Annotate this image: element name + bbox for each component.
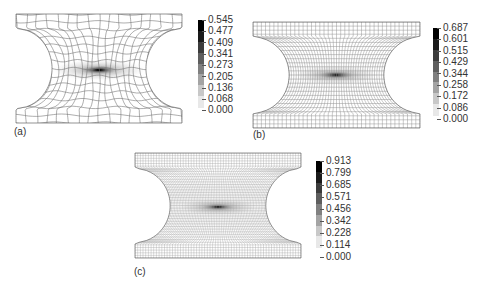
colorbar-tick-label: 0.228 [320,228,351,238]
colorbar-tick-label: 0.000 [437,114,468,124]
colorbar-tick-label: 0.685 [320,180,351,190]
colorbar-tick-label: 0.456 [320,204,351,214]
colorbar-tick-label: 0.205 [202,72,233,82]
colorbar-tick-label: 0.571 [320,192,351,202]
colorbar-tick-label: 0.429 [437,57,468,67]
colorbar-tick-label: 0.172 [437,91,468,101]
mesh-plot-b [240,0,425,130]
colorbar-tick-label: 0.601 [437,34,468,44]
colorbar-tick-label: 0.687 [437,23,468,33]
colorbar-tick-label: 0.273 [202,60,233,70]
colorbar-tick-label: 0.000 [320,252,351,262]
panel-label-b: (b) [253,129,265,140]
colorbar-tick-label: 0.409 [202,38,233,48]
colorbar-tick-label: 0.341 [202,49,233,59]
colorbar-c: 0.9130.7990.6850.5710.4560.3420.2280.114… [316,159,376,269]
colorbar-tick-label: 0.515 [437,46,468,56]
colorbar-tick-label: 0.545 [202,15,233,25]
colorbar-tick-label: 0.799 [320,168,351,178]
colorbar-tick-label: 0.086 [437,103,468,113]
panel-a: 0.5450.4770.4090.3410.2730.2050.1360.068… [0,0,250,150]
colorbar-tick-label: 0.477 [202,26,233,36]
panel-label-a: (a) [14,126,26,137]
colorbar-tick-label: 0.136 [202,83,233,93]
colorbar-tick-label: 0.258 [437,80,468,90]
panel-c: 0.9130.7990.6850.5710.4560.3420.2280.114… [120,145,380,285]
panel-label-c: (c) [134,266,146,277]
colorbar-tick-label: 0.344 [437,69,468,79]
mesh-plot-c [120,145,310,265]
colorbar-tick-label: 0.913 [320,156,351,166]
panel-b: 0.6870.6010.5150.4290.3440.2580.1720.086… [240,0,491,150]
colorbar-tick-label: 0.068 [202,94,233,104]
colorbar-b: 0.6870.6010.5150.4290.3440.2580.1720.086… [433,28,488,133]
colorbar-tick-label: 0.114 [320,240,350,250]
colorbar-tick-label: 0.000 [202,105,233,115]
colorbar-tick-label: 0.342 [320,216,351,226]
mesh-plot-a [0,0,190,130]
